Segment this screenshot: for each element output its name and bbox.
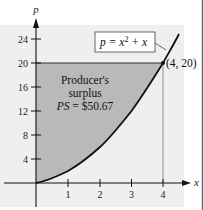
y-tick-label-24: 24 xyxy=(18,34,28,45)
x-axis-arrow-icon xyxy=(182,180,191,186)
equilibrium-point xyxy=(161,61,165,65)
x-tick-label-1: 1 xyxy=(66,189,71,200)
surplus-value-label: PS = $50.67 xyxy=(56,100,114,112)
x-axis-label: x xyxy=(193,176,199,188)
y-tick-label-4: 4 xyxy=(23,154,28,165)
equilibrium-point-label: (4, 20) xyxy=(166,57,197,70)
surplus-label-line1: Producer's xyxy=(61,74,110,86)
y-tick-label-16: 16 xyxy=(18,82,28,93)
equation-label: p = x2 + x xyxy=(99,35,148,49)
y-axis-label: p xyxy=(32,3,39,15)
y-tick-label-12: 12 xyxy=(18,106,28,117)
x-tick-label-3: 3 xyxy=(129,189,134,200)
producer-surplus-chart: 1 2 3 4 4 8 12 16 20 24 p x (4, 20) p = … xyxy=(0,0,204,210)
x-tick-label-4: 4 xyxy=(161,189,166,200)
y-tick-label-8: 8 xyxy=(23,130,28,141)
y-axis-arrow-icon xyxy=(33,18,39,28)
surplus-label-line2: surplus xyxy=(68,87,102,100)
x-tick-label-2: 2 xyxy=(98,189,103,200)
y-tick-label-20: 20 xyxy=(18,58,28,69)
